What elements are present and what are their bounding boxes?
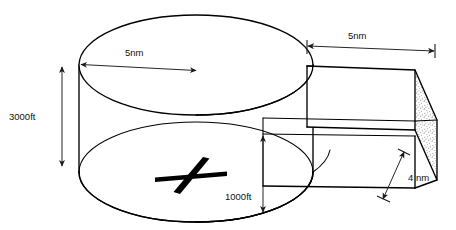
cylinder-base-far-arc [313, 150, 330, 172]
dimension-label-box-height: 1000ft [225, 191, 252, 202]
dimension-label-cylinder-radius: 5nm [125, 47, 144, 58]
diagram-canvas: 3000ft 5nm 5nm 1000ft 4 nm [0, 0, 456, 230]
dimension-box-depth: 4 nm [377, 149, 429, 202]
dimension-box-length: 5nm [307, 30, 435, 58]
dimension-label-box-length: 5nm [348, 30, 367, 41]
dimension-label-cylinder-height: 3000ft [9, 111, 36, 122]
technical-drawing: 3000ft 5nm 5nm 1000ft 4 nm [0, 0, 456, 230]
dim-tick-depth-upper [398, 149, 410, 155]
dimension-label-box-depth: 4 nm [408, 172, 429, 183]
double-arrow-horizontal-icon-2 [308, 46, 434, 51]
double-arrow-diagonal-icon [383, 152, 404, 199]
dimension-cylinder-height: 3000ft [9, 67, 62, 166]
box-right-face-shading [415, 70, 437, 180]
